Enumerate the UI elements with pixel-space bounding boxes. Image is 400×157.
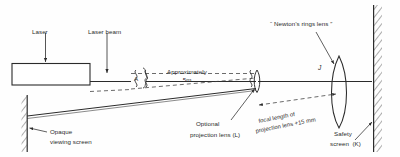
label-approximately: Approximately [156,68,218,76]
focal-length-dimension [259,94,336,105]
label-optional-lens-line1: Optional [196,120,219,128]
newtons-rings-lens [332,56,347,128]
label-newtons-rings-lens: “ Newton’s rings lens ” [270,20,332,28]
optional-lens-leader-line [231,89,255,120]
label-laser-beam: Laser beam [88,28,121,36]
safety-screen [374,5,382,152]
label-opaque-screen-line1: Opaque [50,128,72,136]
label-safety-screen-line2: screen (K) [330,140,361,148]
label-optional-lens-line2: projection lens (L) [190,131,240,139]
optics-diagram: Laser Laser beam “ Newton’s rings lens ”… [0,0,400,157]
laser-body [12,64,90,86]
newtons-rings-lens-leader-line [316,32,334,64]
label-laser: Laser [32,28,48,36]
label-safety-screen-line1: Safety [334,130,352,138]
label-approximate-distance: 5m [156,76,218,84]
projection-ray-to-opaque-screen [27,89,256,119]
label-lens-marker-j: J [318,64,321,72]
label-opaque-screen-line2: viewing screen [50,138,92,146]
opaque-screen-leader-line [30,128,48,132]
opaque-viewing-screen [22,95,28,152]
label-bracket-a: A [134,75,138,83]
safety-screen-leader-line [355,122,372,140]
